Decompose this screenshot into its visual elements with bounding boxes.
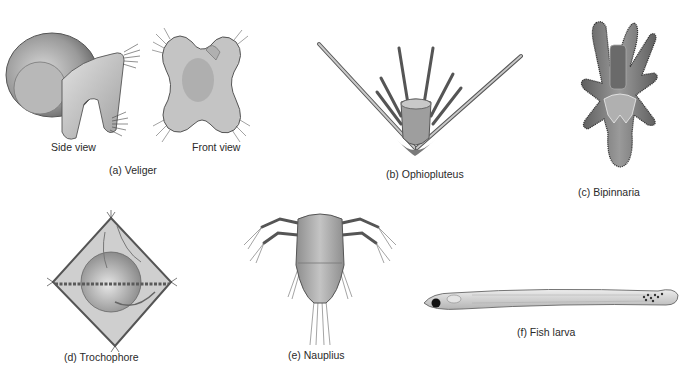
ophiopluteus-icon [315, 40, 525, 160]
caption-nauplius: (e) Nauplius [288, 349, 345, 361]
fish-larva-illustration [422, 283, 682, 313]
veliger-front-view-illustration [150, 20, 250, 150]
bipinnaria-illustration [570, 15, 670, 175]
nauplius-illustration [240, 205, 400, 345]
caption-bipinnaria: (c) Bipinnaria [578, 186, 640, 198]
veliger-side-view-illustration [0, 0, 150, 160]
caption-veliger: (a) Veliger [109, 164, 157, 176]
bipinnaria-icon [570, 15, 670, 175]
ophiopluteus-illustration [315, 40, 525, 160]
side-view-label: Side view [51, 141, 96, 153]
trochophore-illustration [45, 212, 180, 352]
fish-larva-icon [422, 283, 682, 313]
veliger-side-icon [0, 0, 150, 160]
caption-fish-larva: (f) Fish larva [517, 326, 575, 338]
veliger-front-icon [150, 20, 250, 150]
caption-ophiopluteus: (b) Ophiopluteus [386, 168, 464, 180]
trochophore-icon [45, 212, 180, 352]
front-view-label: Front view [192, 141, 240, 153]
caption-trochophore: (d) Trochophore [64, 351, 139, 363]
nauplius-icon [240, 205, 400, 345]
